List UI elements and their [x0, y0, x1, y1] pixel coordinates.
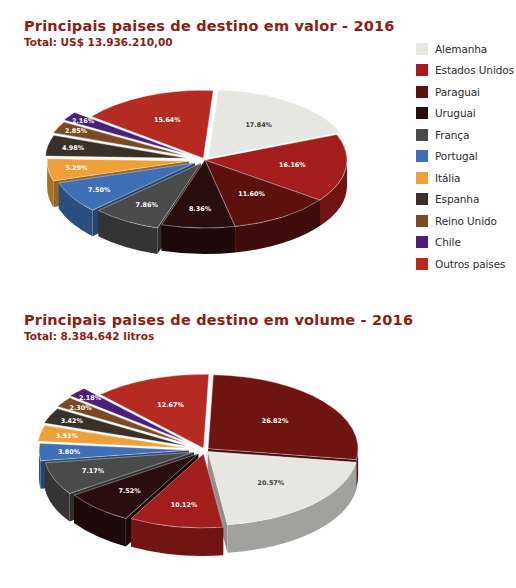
legend-swatch-icon [416, 258, 428, 270]
legend-item[interactable]: Estados Unidos [416, 60, 516, 82]
legend-item-label: França [435, 129, 469, 141]
pie-slice-value-label: 16.16% [279, 161, 306, 169]
pie-slice-value-label: 20.57% [258, 479, 285, 487]
pie-slice-value-label: 17.84% [245, 121, 272, 129]
pie-slice-value-label: 2.16% [72, 117, 95, 125]
legend-swatch-icon [416, 236, 428, 248]
legend-swatch-icon [416, 64, 428, 76]
pie-slice-value-label: 26.82% [262, 417, 289, 425]
legend-item[interactable]: Outros paises [416, 253, 516, 275]
legend-swatch-icon [416, 172, 428, 184]
pie-slice[interactable] [208, 451, 356, 552]
legend-item[interactable]: França [416, 124, 516, 146]
legend-swatch-icon [416, 150, 428, 162]
pie-slice-value-label: 3.80% [58, 448, 81, 456]
pie-slice-value-label: 12.67% [157, 401, 184, 409]
legend-valor: AlemanhaEstados UnidosParaguaiUruguaiFra… [416, 38, 516, 275]
infographic-page: Principais paises de destino em valor - … [0, 0, 516, 588]
pie-slice-value-label: 4.98% [62, 144, 85, 152]
legend-item[interactable]: Chile [416, 232, 516, 254]
pie-slice-value-label: 8.36% [189, 205, 212, 213]
legend-item-label: Alemanha [435, 43, 487, 55]
pie-chart-volume: 26.82%20.57%10.12%7.52%7.17%3.80%3.51%3.… [10, 346, 400, 582]
legend-item[interactable]: Alemanha [416, 38, 516, 60]
legend-swatch-icon [416, 215, 428, 227]
legend-item[interactable]: Uruguai [416, 103, 516, 125]
pie-slice-value-label: 3.51% [56, 432, 79, 440]
legend-swatch-icon [416, 129, 428, 141]
pie-slice-value-label: 3.42% [61, 417, 84, 425]
chart1-subtitle: Total: US$ 13.936.210,00 [24, 36, 395, 48]
legend-item-label: Estados Unidos [435, 64, 514, 76]
pie-slice-value-label: 2.18% [79, 394, 102, 402]
chart2-subtitle: Total: 8.384.642 litros [24, 330, 413, 342]
chart1-title: Principais paises de destino em valor - … [24, 18, 395, 34]
legend-item[interactable]: Espanha [416, 189, 516, 211]
pie-slice-value-label: 7.86% [136, 201, 159, 209]
pie-chart-valor: 17.84%16.16%11.60%8.36%7.86%7.50%5.29%4.… [10, 62, 400, 287]
pie-slice-value-label: 5.29% [65, 164, 88, 172]
chart-panel-volume: Principais paises de destino em volume -… [0, 294, 516, 588]
legend-item-label: Reino Unido [435, 215, 497, 227]
pie-slice-value-label: 2.30% [69, 404, 92, 412]
pie-slices-valor [45, 90, 347, 254]
legend-item[interactable]: Reino Unido [416, 210, 516, 232]
pie-slice-value-label: 15.64% [154, 116, 181, 124]
legend-item-label: Itália [435, 172, 460, 184]
chart2-title-group: Principais paises de destino em volume -… [24, 312, 413, 342]
legend-swatch-icon [416, 86, 428, 98]
legend-item-label: Espanha [435, 193, 479, 205]
chart-panel-valor: Principais paises de destino em valor - … [0, 0, 516, 294]
pie-slice-value-label: 7.17% [82, 467, 105, 475]
legend-swatch-icon [416, 193, 428, 205]
pie-slice-value-label: 2.85% [65, 127, 88, 135]
pie-slice-value-label: 11.60% [238, 190, 265, 198]
legend-item-label: Chile [435, 236, 461, 248]
legend-item-label: Portugal [435, 150, 478, 162]
legend-item-label: Outros paises [435, 258, 505, 270]
legend-item[interactable]: Itália [416, 167, 516, 189]
pie-svg-valor: 17.84%16.16%11.60%8.36%7.86%7.50%5.29%4.… [10, 62, 400, 287]
pie-svg-volume: 26.82%20.57%10.12%7.52%7.17%3.80%3.51%3.… [10, 346, 400, 582]
legend-item[interactable]: Portugal [416, 146, 516, 168]
legend-item-label: Uruguai [435, 107, 476, 119]
legend-swatch-icon [416, 43, 428, 55]
pie-slice-side [162, 225, 235, 254]
pie-slice-value-label: 7.50% [88, 186, 111, 194]
chart2-title: Principais paises de destino em volume -… [24, 312, 413, 328]
legend-item[interactable]: Paraguai [416, 81, 516, 103]
legend-swatch-icon [416, 107, 428, 119]
pie-slice-value-label: 10.12% [171, 501, 198, 509]
legend-item-label: Paraguai [435, 86, 480, 98]
chart1-title-group: Principais paises de destino em valor - … [24, 18, 395, 48]
pie-slice-value-label: 7.52% [118, 487, 141, 495]
